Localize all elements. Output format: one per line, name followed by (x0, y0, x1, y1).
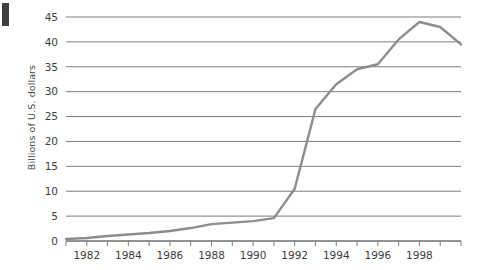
data-line (66, 22, 461, 239)
svg-text:5: 5 (51, 210, 58, 222)
svg-text:10: 10 (45, 185, 58, 197)
svg-text:1982: 1982 (73, 249, 100, 261)
svg-text:1992: 1992 (281, 249, 308, 261)
svg-text:45: 45 (45, 11, 58, 23)
svg-text:30: 30 (45, 85, 58, 97)
svg-text:1986: 1986 (157, 249, 184, 261)
svg-text:1984: 1984 (115, 249, 142, 261)
chart-screenshot: Billions of U.S. dollars 051015202530354… (0, 0, 480, 270)
svg-text:1988: 1988 (198, 249, 225, 261)
svg-text:15: 15 (45, 160, 58, 172)
line-chart: 051015202530354045 198219841986198819901… (0, 0, 480, 270)
x-tick-labels: 198219841986198819901992199419961998 (73, 249, 432, 261)
x-tick-marks (66, 241, 461, 246)
svg-text:35: 35 (45, 61, 58, 73)
svg-text:1996: 1996 (364, 249, 391, 261)
y-tick-labels: 051015202530354045 (45, 11, 58, 247)
y-gridlines (66, 17, 461, 241)
svg-text:0: 0 (51, 235, 58, 247)
svg-text:20: 20 (45, 135, 58, 147)
svg-text:1998: 1998 (406, 249, 433, 261)
svg-text:40: 40 (45, 36, 58, 48)
svg-text:1994: 1994 (323, 249, 350, 261)
svg-text:1990: 1990 (240, 249, 267, 261)
svg-text:25: 25 (45, 110, 58, 122)
